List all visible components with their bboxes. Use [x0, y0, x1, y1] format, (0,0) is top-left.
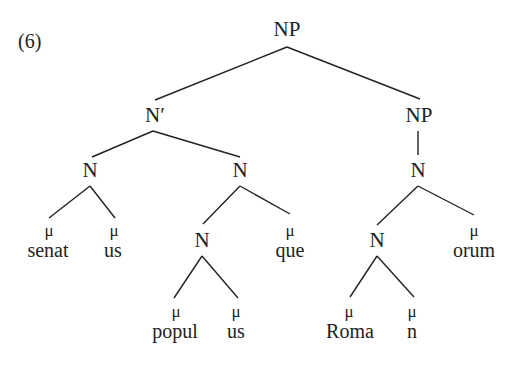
word-roma: Roma	[326, 321, 374, 341]
mu-popul: μ	[171, 303, 180, 320]
word-popul: popul	[152, 321, 198, 341]
mu-orum: μ	[469, 222, 478, 239]
node-n-roma: N	[369, 230, 384, 251]
word-senat: senat	[27, 240, 68, 260]
node-n-bar: N′	[145, 105, 165, 126]
node-root-np: NP	[274, 19, 301, 40]
word-orum: orum	[453, 240, 495, 260]
mu-senat: μ	[44, 222, 53, 239]
mu-us2: μ	[231, 303, 240, 320]
node-n-mid: N	[232, 160, 247, 181]
word-que: que	[276, 240, 305, 260]
node-n-under-np: N	[410, 160, 425, 181]
mu-n: μ	[407, 303, 416, 320]
node-n-left: N	[82, 160, 97, 181]
word-us2: us	[227, 321, 245, 341]
mu-roma: μ	[344, 303, 353, 320]
mu-que: μ	[285, 222, 294, 239]
word-n: n	[407, 321, 417, 341]
word-us1: us	[104, 240, 122, 260]
mu-us1: μ	[109, 222, 118, 239]
node-np-right: NP	[406, 105, 433, 126]
node-n-popul: N	[194, 230, 209, 251]
tree-branches	[0, 0, 518, 368]
